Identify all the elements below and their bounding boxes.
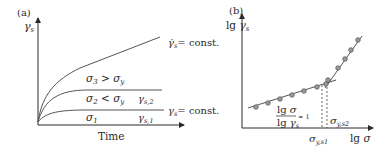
label-sigma2: σ2 < σy <box>86 92 125 106</box>
panel-b-y-label: lg γs <box>226 19 250 33</box>
figure: (a) γs Time σ3 > σy σ2 < σy σ1 γs,2 γs,1… <box>0 0 392 154</box>
panel-a-tag: (a) <box>17 7 31 18</box>
slope-value: ≈ 1 <box>298 113 310 121</box>
label-gamma-s2: γs,2 <box>138 93 154 106</box>
panel-a-y-label: γs <box>24 20 35 34</box>
label-sigma3: σ3 > σy <box>86 72 125 86</box>
label-sigma-ys1: σy,s1 <box>309 133 328 146</box>
label-strain-const: γs= const. <box>168 105 219 118</box>
slope-numerator: lg σ <box>277 104 298 115</box>
diagram-canvas: (a) γs Time σ3 > σy σ2 < σy σ1 γs,2 γs,1… <box>0 0 392 154</box>
label-gamma-s1: γs,1 <box>138 112 154 125</box>
panel-b-tag: (b) <box>229 5 243 16</box>
panel-a-x-label: Time <box>98 130 125 142</box>
panel-a: (a) γs Time σ3 > σy σ2 < σy σ1 γs,2 γs,1… <box>17 7 219 142</box>
label-rate-const: γ̇s= const. <box>168 37 219 50</box>
data-markers <box>254 38 361 110</box>
panel-b-x-label: lg σ <box>350 132 371 144</box>
label-sigma1: σ1 <box>86 111 98 125</box>
panel-b: (b) lg γs lg σ lg γs ≈ 1 <box>226 5 373 146</box>
label-sigma-ys2: σy,s2 <box>330 115 349 128</box>
